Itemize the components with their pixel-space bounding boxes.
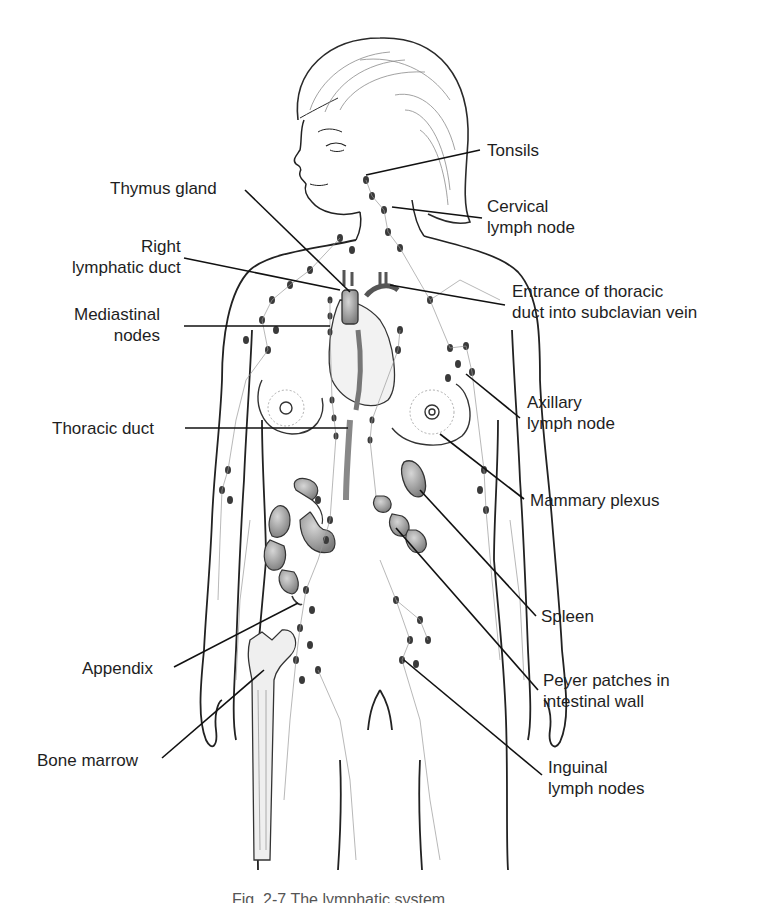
label-entrance-thoracic-duct: Entrance of thoracic duct into subclavia… <box>512 281 697 323</box>
label-peyer-patches: Peyer patches in intestinal wall <box>543 670 670 712</box>
leader-lines <box>162 150 542 775</box>
label-mediastinal-nodes: Mediastinal nodes <box>74 304 160 346</box>
lymph-nodes <box>219 176 489 684</box>
label-mammary-plexus: Mammary plexus <box>530 490 659 511</box>
label-axillary-lymph-node: Axillary lymph node <box>527 392 615 434</box>
label-thymus-gland: Thymus gland <box>110 178 217 199</box>
leader-spleen <box>420 490 536 616</box>
label-appendix: Appendix <box>82 658 153 679</box>
leader-axillary <box>466 374 520 418</box>
leader-tonsils <box>366 150 480 175</box>
label-thoracic-duct: Thoracic duct <box>52 418 154 439</box>
leader-cervical <box>392 207 482 218</box>
hair <box>297 38 470 223</box>
label-inguinal-lymph-nodes: Inguinal lymph nodes <box>548 757 644 799</box>
leader-thymus <box>245 190 350 292</box>
heart <box>329 270 398 410</box>
label-bone-marrow: Bone marrow <box>37 750 138 771</box>
label-right-lymphatic-duct: Right lymphatic duct <box>72 236 181 278</box>
face <box>294 120 424 240</box>
label-spleen: Spleen <box>541 606 594 627</box>
leader-bone-marrow <box>162 670 264 758</box>
label-cervical-lymph-node: Cervical lymph node <box>487 196 575 238</box>
figure-caption: Fig. 2-7 The lymphatic system <box>232 889 445 903</box>
label-tonsils: Tonsils <box>487 140 539 161</box>
intestines-right <box>374 496 427 553</box>
thoracic-duct-vessel <box>346 420 350 500</box>
